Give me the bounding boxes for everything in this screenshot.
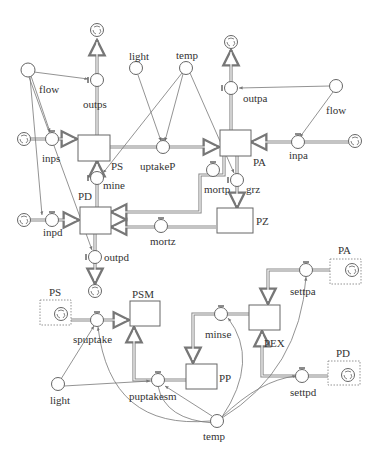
stock-PEX[interactable]	[249, 305, 280, 330]
cloud-icon	[342, 369, 355, 382]
influence-links-top	[29, 72, 333, 250]
cloud-icon	[91, 24, 104, 37]
valve-uptakeP[interactable]	[157, 139, 170, 154]
label-grz: grz	[246, 183, 260, 195]
label-mine: mine	[103, 179, 125, 191]
valve-mortz[interactable]	[155, 218, 168, 233]
label-flow-right: flow	[326, 104, 346, 116]
valve-settpa[interactable]	[300, 262, 313, 277]
valve-mortp[interactable]	[207, 162, 220, 177]
label-PD: PD	[78, 190, 92, 202]
label-uptakeP: uptakeP	[140, 160, 175, 172]
valve-puptakesm[interactable]	[152, 372, 165, 387]
converter-temp-bottom[interactable]	[211, 415, 224, 428]
stock-PSM[interactable]	[130, 301, 160, 326]
valve-outpa[interactable]	[222, 82, 238, 95]
label-light-top: light	[129, 50, 149, 62]
label-settpd: settpd	[290, 386, 317, 398]
label-spuptake: spuptake	[73, 333, 112, 345]
cloud-icon	[55, 308, 68, 321]
valve-inpd[interactable]	[46, 212, 59, 227]
label-PZ: PZ	[256, 215, 269, 227]
label-inpd: inpd	[43, 226, 63, 238]
valve-inps[interactable]	[46, 131, 59, 146]
label-PP: PP	[219, 372, 231, 384]
cloud-icon	[349, 135, 362, 148]
label-inpa: inpa	[289, 149, 308, 161]
cloud-icon	[346, 264, 359, 277]
valve-mine[interactable]	[88, 172, 104, 185]
label-light-bottom: light	[50, 394, 70, 406]
stock-PP[interactable]	[186, 364, 217, 389]
valve-grz[interactable]	[228, 174, 244, 187]
label-mortz: mortz	[150, 235, 176, 247]
label-temp-bottom: temp	[203, 430, 225, 442]
converter-flow-left[interactable]	[21, 63, 35, 77]
cloud-icon	[18, 133, 31, 146]
converter-temp-top[interactable]	[180, 62, 193, 75]
cloud-icon	[18, 214, 31, 227]
valve-outps[interactable]	[88, 74, 104, 87]
label-flow-left: flow	[39, 83, 59, 95]
stock-PZ[interactable]	[217, 208, 253, 233]
valve-spuptake[interactable]	[91, 312, 104, 327]
converter-flow-right[interactable]	[330, 80, 343, 93]
stock-flow-diagram: flow outps light temp outpa flow inps PS…	[0, 0, 381, 459]
label-PSM: PSM	[132, 288, 154, 300]
label-ghost-PS: PS	[49, 286, 61, 298]
label-ghost-PA: PA	[338, 244, 351, 256]
stock-PD[interactable]	[80, 207, 111, 234]
label-PS: PS	[111, 160, 123, 172]
cloud-icon	[89, 285, 102, 298]
converter-light-top[interactable]	[130, 62, 143, 75]
stock-PA[interactable]	[220, 130, 251, 156]
label-inps: inps	[42, 152, 60, 164]
valve-minse[interactable]	[215, 306, 228, 321]
label-settpa: settpa	[290, 285, 316, 297]
label-ghost-PD: PD	[336, 347, 350, 359]
label-outpd: outpd	[104, 251, 130, 263]
label-mortp: mortp	[204, 183, 231, 195]
stock-PS[interactable]	[78, 135, 110, 161]
label-PEX: PEX	[264, 337, 285, 349]
label-puptakesm: puptakesm	[129, 390, 177, 402]
converter-light-bottom[interactable]	[52, 378, 65, 391]
cloud-icon	[225, 36, 238, 49]
label-temp-top: temp	[176, 49, 198, 61]
label-minse: minse	[205, 328, 231, 340]
label-PA: PA	[253, 156, 266, 168]
label-outpa: outpa	[243, 92, 268, 104]
valve-outpd[interactable]	[86, 251, 102, 264]
valve-settpd[interactable]	[296, 368, 309, 383]
valve-inpa[interactable]	[292, 134, 305, 149]
label-outps: outps	[83, 98, 107, 110]
